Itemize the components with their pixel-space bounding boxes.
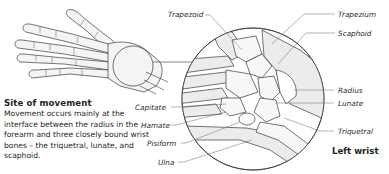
label-triquetral: Triquetral [338, 127, 373, 136]
label-trapezium: Trapezium [338, 10, 376, 19]
label-lunate: Lunate [338, 99, 363, 108]
caption-title: Site of movement [4, 98, 154, 109]
label-radius: Radius [338, 86, 363, 95]
hand-illustration [15, 9, 168, 94]
caption-body: Movement occurs mainly at the interface … [4, 109, 154, 162]
magnified-wrist [175, 26, 326, 170]
caption: Site of movement Movement occurs mainly … [4, 98, 154, 162]
label-ulna: Ulna [158, 158, 174, 167]
label-scaphoid: Scaphoid [338, 29, 372, 38]
label-trapezoid: Trapezoid [168, 10, 203, 19]
view-title: Left wrist [332, 146, 379, 156]
